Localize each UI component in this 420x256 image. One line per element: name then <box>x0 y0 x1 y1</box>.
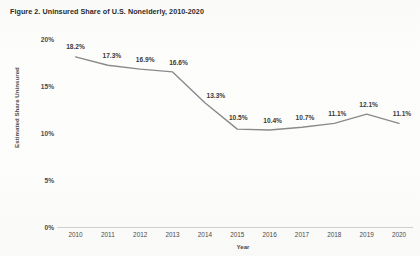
y-axis-tick: 10% <box>28 130 54 137</box>
y-axis-tick: 20% <box>28 36 54 43</box>
x-axis-tick: 2020 <box>384 231 414 238</box>
data-point-label: 10.4% <box>256 117 290 124</box>
y-axis-tick: 0% <box>28 224 54 231</box>
data-point-label: 12.1% <box>352 101 386 108</box>
x-axis-tick: 2015 <box>222 231 252 238</box>
x-axis-tick: 2014 <box>190 231 220 238</box>
x-axis-tick: 2011 <box>93 231 123 238</box>
line-series-svg <box>0 0 420 256</box>
x-axis-tick: 2017 <box>287 231 317 238</box>
data-point-label: 10.7% <box>288 114 322 121</box>
y-axis-title: Estimated Share Uninsured <box>13 66 20 150</box>
data-point-label: 18.2% <box>59 43 93 50</box>
x-axis-tick: 2019 <box>352 231 382 238</box>
y-axis-tick: 15% <box>28 83 54 90</box>
x-axis-title: Year <box>228 243 258 250</box>
y-axis-tick: 5% <box>28 177 54 184</box>
x-axis-tick: 2018 <box>319 231 349 238</box>
data-point-label: 16.9% <box>128 56 162 63</box>
data-point-label: 16.6% <box>162 59 196 66</box>
data-point-label: 17.3% <box>95 52 129 59</box>
chart-plot-area: 0%5%10%15%20% 20102011201220132014201520… <box>0 0 420 256</box>
data-point-label: 10.5% <box>221 114 255 121</box>
data-point-label: 11.1% <box>320 110 354 117</box>
x-axis-tick: 2013 <box>158 231 188 238</box>
x-axis-tick: 2016 <box>255 231 285 238</box>
data-point-label: 11.1% <box>385 110 419 117</box>
data-point-label: 13.3% <box>199 92 233 99</box>
x-axis-tick: 2010 <box>61 231 91 238</box>
x-axis-tick: 2012 <box>125 231 155 238</box>
figure-container: Figure 2. Uninsured Share of U.S. Noneld… <box>0 0 420 256</box>
